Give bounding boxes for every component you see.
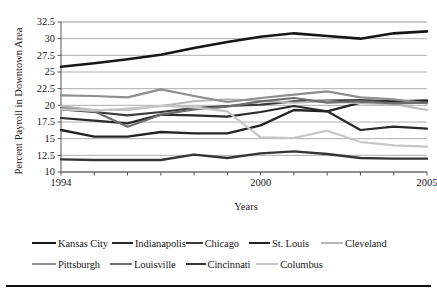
legend-label: Louisville xyxy=(134,259,176,270)
figure-container: 1012.51517.52022.52527.53032.5 199420002… xyxy=(0,0,437,296)
legend-label: Chicago xyxy=(205,238,239,249)
legend-item-kansas-city[interactable]: Kansas City xyxy=(32,238,108,249)
line-chart: 1012.51517.52022.52527.53032.5 199420002… xyxy=(0,0,437,230)
y-tick-label: 15 xyxy=(45,133,56,144)
legend-swatch-icon xyxy=(32,263,56,265)
y-tick-labels: 1012.51517.52022.52527.53032.5 xyxy=(37,16,55,177)
y-tick-label: 20 xyxy=(45,100,56,111)
y-tick-label: 25 xyxy=(45,66,56,77)
legend-label: Kansas City xyxy=(58,238,108,249)
y-axis-label: Percent Payroll in Downtown Area xyxy=(13,27,24,174)
legend-swatch-icon xyxy=(32,242,56,244)
legend-swatch-icon xyxy=(110,263,132,265)
y-tick-label: 22.5 xyxy=(37,83,55,94)
legend-item-cincinnati[interactable]: Cincinnati xyxy=(186,259,251,270)
series-line-columbus xyxy=(61,106,427,147)
data-series-group xyxy=(61,31,427,160)
y-tick-label: 17.5 xyxy=(37,116,55,127)
legend-item-pittsburgh[interactable]: Pittsburgh xyxy=(32,259,100,270)
x-tick-labels: 199420002005 xyxy=(51,177,437,188)
legend-item-st-louis[interactable]: St. Louis xyxy=(249,238,309,249)
y-tick-label: 12.5 xyxy=(37,150,55,161)
legend-label: Cleveland xyxy=(345,238,387,249)
bottom-divider xyxy=(6,285,431,287)
y-tick-label: 27.5 xyxy=(37,50,55,61)
legend-label: Pittsburgh xyxy=(58,259,100,270)
x-tick-marks xyxy=(61,172,427,176)
x-tick-label: 2000 xyxy=(250,177,271,188)
y-tick-marks xyxy=(58,22,62,172)
legend-swatch-icon xyxy=(249,242,270,244)
legend-row-secondary: PittsburghLouisvilleCincinnatiColumbus xyxy=(0,257,437,271)
x-axis-label: Years xyxy=(234,201,257,212)
legend-swatch-icon xyxy=(186,242,203,244)
legend-swatch-icon xyxy=(186,263,206,265)
legend-item-cleveland[interactable]: Cleveland xyxy=(321,238,387,249)
legend-item-chicago[interactable]: Chicago xyxy=(186,238,239,249)
x-tick-label: 1994 xyxy=(51,177,73,188)
x-tick-label: 2005 xyxy=(417,177,437,188)
legend-label: Indianapolis xyxy=(135,238,186,249)
y-tick-label: 10 xyxy=(45,166,56,177)
y-tick-label: 32.5 xyxy=(37,16,55,27)
legend-swatch-icon xyxy=(256,263,278,265)
legend-swatch-icon xyxy=(112,242,133,244)
legend-label: Columbus xyxy=(280,259,322,270)
legend-label: St. Louis xyxy=(272,238,309,249)
legend-label: Cincinnati xyxy=(208,259,251,270)
series-line-kansas-city xyxy=(61,31,427,66)
series-line-louisville xyxy=(61,98,427,127)
legend-item-indianapolis[interactable]: Indianapolis xyxy=(112,238,186,249)
legend-swatch-icon xyxy=(321,242,343,244)
y-tick-label: 30 xyxy=(45,33,56,44)
legend-item-columbus[interactable]: Columbus xyxy=(256,259,322,270)
legend-item-louisville[interactable]: Louisville xyxy=(110,259,176,270)
legend-row-primary: Kansas CityIndianapolisChicagoSt. LouisC… xyxy=(0,236,437,250)
